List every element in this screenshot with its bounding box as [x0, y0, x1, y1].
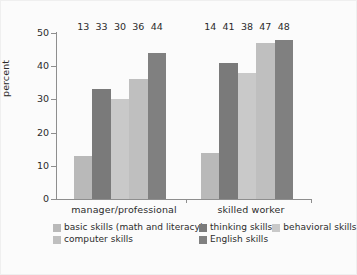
- bar-slot: 41: [219, 33, 237, 199]
- bar-slot: 38: [238, 33, 256, 199]
- y-tick-label: 10: [37, 161, 49, 171]
- bar-english-skills[interactable]: [148, 53, 166, 199]
- x-axis-label-skilled-worker: skilled worker: [196, 204, 306, 215]
- bar-thinking-skills[interactable]: [92, 89, 110, 199]
- x-axis-line: [56, 199, 312, 200]
- bar-value-label: 14: [204, 22, 216, 32]
- x-axis-group-tick: [311, 199, 312, 203]
- chart-figure: percent 0 10 20 30 40 50 1: [0, 0, 357, 275]
- bar-value-label: 30: [114, 22, 126, 32]
- bar-value-label: 44: [151, 22, 163, 32]
- y-tick-mark: [51, 133, 56, 134]
- legend-item-computer-skills[interactable]: computer skills: [53, 235, 199, 244]
- bar-value-label: 47: [259, 22, 271, 32]
- plot-area: 0 10 20 30 40 50 13 33: [56, 33, 311, 199]
- y-tick-label: 40: [37, 61, 49, 71]
- bar-group-skilled-worker: 14 41 38 47 48: [201, 33, 293, 199]
- y-axis-title: percent: [0, 60, 11, 97]
- y-tick-label: 0: [43, 194, 49, 204]
- legend-swatch-icon: [53, 224, 61, 232]
- bar-english-skills[interactable]: [275, 40, 293, 199]
- bar-value-label: 13: [77, 22, 89, 32]
- legend-item-thinking-skills[interactable]: thinking skills: [199, 223, 272, 232]
- bar-slot: 47: [256, 33, 274, 199]
- bar-computer-skills[interactable]: [129, 79, 147, 199]
- x-axis-group-tick: [186, 199, 187, 203]
- bar-slot: 14: [201, 33, 219, 199]
- y-tick-label: 20: [37, 128, 49, 138]
- bar-behavioral-skills[interactable]: [238, 73, 256, 199]
- bar-slot: 30: [111, 33, 129, 199]
- y-tick-mark: [51, 166, 56, 167]
- bar-value-label: 41: [223, 22, 235, 32]
- bar-basic-skills[interactable]: [74, 156, 92, 199]
- bar-slot: 13: [74, 33, 92, 199]
- bar-value-label: 48: [278, 22, 290, 32]
- legend-swatch-icon: [53, 236, 61, 244]
- legend-item-basic-skills[interactable]: basic skills (math and literacy): [53, 223, 199, 232]
- legend-label: basic skills (math and literacy): [64, 223, 204, 232]
- y-tick-mark: [51, 99, 56, 100]
- y-tick-mark: [51, 33, 56, 34]
- bar-value-label: 33: [96, 22, 108, 32]
- bar-basic-skills[interactable]: [201, 153, 219, 199]
- bar-group-manager-professional: 13 33 30 36 44: [74, 33, 166, 199]
- bar-thinking-skills[interactable]: [219, 63, 237, 199]
- bar-slot: 36: [129, 33, 147, 199]
- bar-slot: 44: [148, 33, 166, 199]
- legend-swatch-icon: [272, 224, 280, 232]
- y-tick-label: 50: [37, 28, 49, 38]
- legend-swatch-icon: [199, 224, 207, 232]
- legend-label: computer skills: [64, 235, 133, 244]
- bar-computer-skills[interactable]: [256, 43, 274, 199]
- bar-value-label: 36: [132, 22, 144, 32]
- legend-item-english-skills[interactable]: English skills: [199, 235, 273, 244]
- y-tick-mark: [51, 66, 56, 67]
- legend-row: basic skills (math and literacy) thinkin…: [53, 223, 348, 232]
- legend-label: behavioral skills: [283, 223, 356, 232]
- bar-behavioral-skills[interactable]: [111, 99, 129, 199]
- bar-slot: 48: [275, 33, 293, 199]
- legend-label: English skills: [210, 235, 268, 244]
- chart-legend: basic skills (math and literacy) thinkin…: [53, 223, 348, 247]
- legend-row: computer skills English skills: [53, 235, 348, 244]
- legend-item-behavioral-skills[interactable]: behavioral skills: [272, 223, 356, 232]
- x-axis-label-manager-professional: manager/professional: [64, 204, 184, 215]
- legend-label: thinking skills: [210, 223, 272, 232]
- y-tick-mark: [51, 199, 56, 200]
- bar-value-label: 38: [241, 22, 253, 32]
- bar-slot: 33: [92, 33, 110, 199]
- legend-swatch-icon: [199, 236, 207, 244]
- y-tick-label: 30: [37, 95, 49, 105]
